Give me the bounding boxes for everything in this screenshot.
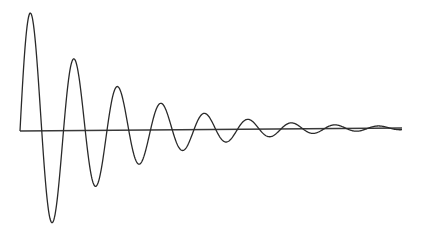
figure-canvas: Damped oscillation	[0, 0, 421, 243]
damped-wave-plot	[0, 0, 421, 243]
damped-wave-curve	[20, 13, 402, 223]
baseline-axis	[20, 128, 402, 131]
